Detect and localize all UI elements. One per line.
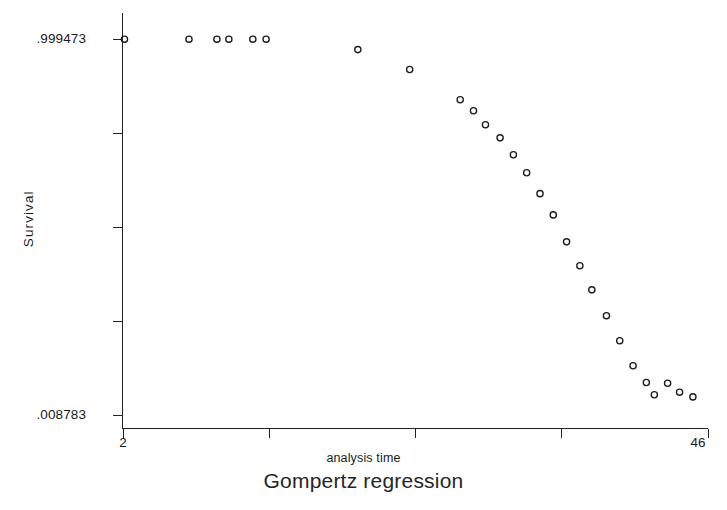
data-point <box>524 170 530 176</box>
data-point <box>550 212 556 218</box>
data-point <box>457 97 463 103</box>
data-point <box>250 36 256 42</box>
data-point <box>643 379 649 385</box>
y-axis-min-tick-label: .008783 <box>8 408 86 422</box>
data-point <box>226 36 232 42</box>
data-point <box>577 263 583 269</box>
x-axis-min-tick-label: 2 <box>110 436 136 450</box>
data-point <box>186 36 192 42</box>
y-axis-title: Survival <box>22 164 36 274</box>
data-point-markers <box>121 36 696 400</box>
data-point <box>589 287 595 293</box>
data-point <box>630 363 636 369</box>
survival-scatter-plot <box>0 0 727 510</box>
y-axis-ticks <box>113 40 123 416</box>
data-point <box>510 152 516 158</box>
data-point <box>497 135 503 141</box>
data-point <box>470 108 476 114</box>
data-point <box>482 122 488 128</box>
data-point <box>617 338 623 344</box>
data-point <box>263 36 269 42</box>
data-point <box>690 394 696 400</box>
data-point <box>676 389 682 395</box>
x-axis-title: analysis time <box>0 452 727 465</box>
data-point <box>651 392 657 398</box>
y-axis-max-tick-label: .999473 <box>8 32 86 46</box>
data-point <box>603 313 609 319</box>
data-point <box>665 380 671 386</box>
x-axis-ticks <box>124 429 709 438</box>
figure-caption: Gompertz regression <box>0 470 727 491</box>
data-point <box>537 191 543 197</box>
data-point <box>355 47 361 53</box>
x-axis-max-tick-label: 46 <box>682 436 714 450</box>
figure-container: .999473 .008783 2 46 Survival analysis t… <box>0 0 727 510</box>
data-point <box>407 66 413 72</box>
data-point <box>563 239 569 245</box>
data-point <box>214 36 220 42</box>
axis-frame <box>123 13 709 429</box>
